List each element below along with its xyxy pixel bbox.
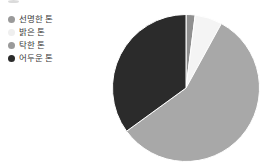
pie-chart-svg xyxy=(112,14,260,162)
chart-page: 선명한 톤 밝은 톤 탁한 톤 어두운 톤 xyxy=(0,0,261,166)
legend-item-bright-tone[interactable]: 밝은 톤 xyxy=(8,26,78,39)
legend-swatch-icon xyxy=(8,55,15,62)
legend-swatch-icon xyxy=(8,29,15,36)
legend-swatch-icon xyxy=(8,16,15,23)
pie-slice-group xyxy=(113,15,260,162)
legend-item-vivid-tone[interactable]: 선명한 톤 xyxy=(8,13,78,26)
legend-item-label: 선명한 톤 xyxy=(19,15,53,24)
legend-swatch-icon xyxy=(8,42,15,49)
legend-item-dark-tone[interactable]: 어두운 톤 xyxy=(8,52,78,65)
legend-item-dull-tone[interactable]: 탁한 톤 xyxy=(8,39,78,52)
chart-legend: 선명한 톤 밝은 톤 탁한 톤 어두운 톤 xyxy=(8,13,78,65)
cropped-marker-artifact xyxy=(8,0,19,3)
legend-item-label: 탁한 톤 xyxy=(19,41,45,50)
legend-item-label: 어두운 톤 xyxy=(19,54,53,63)
legend-item-label: 밝은 톤 xyxy=(19,28,45,37)
pie-chart xyxy=(112,14,260,162)
